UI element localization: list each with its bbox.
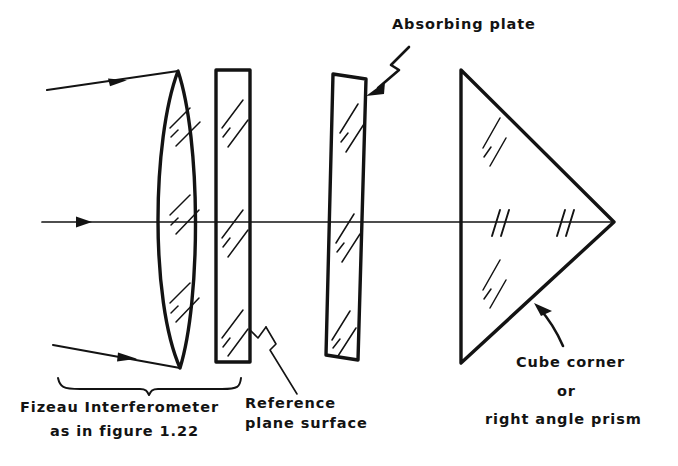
absorbing-plate-leader	[366, 47, 409, 96]
upper-input-ray	[47, 71, 178, 90]
prism-glass-hatching	[483, 118, 506, 308]
collimating-lens	[158, 71, 200, 368]
cube-corner-prism	[461, 70, 614, 363]
reference-flat-plate	[216, 70, 250, 362]
reference-plane-label-line2: plane surface	[245, 415, 368, 431]
fizeau-label-line1: Fizeau Interferometer	[20, 399, 219, 415]
absorbing-plate-label: Absorbing plate	[392, 16, 536, 32]
optical-diagram: Absorbing plate Reference plane surface …	[0, 0, 678, 466]
reference-plate-leader	[250, 327, 297, 394]
prism-label-line1: Cube corner	[516, 354, 625, 370]
absorbing-plate	[326, 74, 366, 360]
prism-axis-hatch-marks	[492, 210, 574, 236]
reference-plane-label-line1: Reference	[245, 395, 336, 411]
reference-plate-glass-hatching	[222, 100, 248, 356]
prism-label-line3: right angle prism	[485, 411, 642, 427]
fizeau-brace	[58, 378, 241, 395]
figure-canvas: Absorbing plate Reference plane surface …	[0, 0, 678, 466]
prism-leader	[534, 303, 563, 346]
fizeau-label-line2: as in figure 1.22	[50, 423, 199, 439]
prism-label-line2: or	[557, 383, 576, 399]
lower-input-ray	[53, 345, 180, 368]
